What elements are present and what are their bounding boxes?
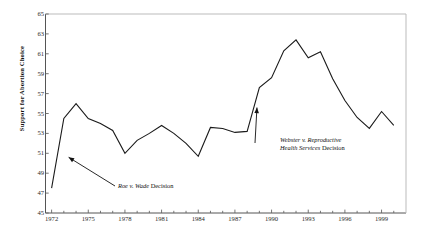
webster-case-name-line2: Health Services: [280, 144, 320, 151]
annotation-arrow-line: [69, 157, 115, 186]
roe-annotation-label: Roe v. Wade Decision: [118, 182, 173, 190]
annotation-arrows: [69, 108, 259, 186]
webster-case-name-line1: Webster v. Reproductive: [280, 136, 341, 143]
plot-canvas: [0, 0, 422, 237]
roe-case-name: Roe v. Wade: [118, 182, 149, 189]
webster-decision-text: Decision: [320, 144, 344, 151]
abortion-choice-line-chart: Support for Abortion Choice 454749515355…: [0, 0, 422, 237]
axis-lines: [46, 14, 407, 213]
data-series-line: [52, 40, 394, 188]
annotation-arrow-head: [69, 157, 75, 162]
webster-annotation-label: Webster v. Reproductive Health Services …: [280, 136, 345, 152]
annotation-arrow-head: [254, 108, 259, 114]
x-tick-marks: [52, 210, 394, 213]
roe-decision-text: Decision: [149, 182, 173, 189]
